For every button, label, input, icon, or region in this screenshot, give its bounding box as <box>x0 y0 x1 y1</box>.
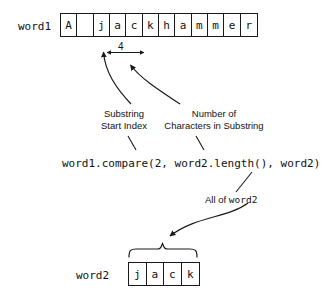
all-of-word2-arrow <box>170 203 248 236</box>
word1-cell-11: r <box>241 14 257 36</box>
substring-start-index-line1: Substring <box>93 108 155 120</box>
number-of-characters-annotation: Number of Characters in Substring <box>160 108 268 131</box>
substring-start-index-line2: Start Index <box>93 120 155 132</box>
word1-cell-1 <box>77 14 93 36</box>
all-of-word2-prefix: All of <box>205 194 229 205</box>
substring-start-index-leader <box>128 136 136 150</box>
diagram-vector-layer <box>0 0 328 297</box>
word1-cell-6: h <box>159 14 175 36</box>
word1-string-box: A j a c k h a m m e r <box>60 13 258 37</box>
number-of-characters-leader <box>196 136 204 150</box>
word2-brace <box>129 244 197 258</box>
word1-cell-5: k <box>143 14 159 36</box>
word2-cell-3: k <box>182 263 200 285</box>
all-of-word2-annotation: All of word2 <box>205 194 257 206</box>
word2-cell-1: a <box>147 263 165 285</box>
substring-start-index-annotation: Substring Start Index <box>93 108 155 131</box>
number-of-characters-arrow <box>131 65 181 104</box>
number-of-characters-line2: Characters in Substring <box>160 120 268 132</box>
word2-string-box: j a c k <box>128 262 200 286</box>
word1-cell-3: a <box>110 14 126 36</box>
substring-length-dimension-label: 4 <box>118 41 124 52</box>
number-of-characters-line1: Number of <box>160 108 268 120</box>
word1-cell-9: m <box>208 14 224 36</box>
all-of-word2-leader <box>236 172 252 192</box>
code-expression: word1.compare(2, word2.length(), word2) <box>62 157 320 170</box>
diagram-canvas: word1 A j a c k h a m m e r 4 Substring … <box>0 0 328 297</box>
word1-cell-2: j <box>94 14 110 36</box>
word1-cell-8: m <box>192 14 208 36</box>
word2-label: word2 <box>76 269 109 282</box>
word1-cell-4: c <box>126 14 142 36</box>
word1-cell-10: e <box>224 14 240 36</box>
word1-cell-7: a <box>175 14 191 36</box>
word1-cell-0: A <box>61 14 77 36</box>
word1-label: word1 <box>18 20 51 33</box>
word2-cell-2: c <box>164 263 182 285</box>
word2-cell-0: j <box>129 263 147 285</box>
all-of-word2-mono: word2 <box>229 194 258 205</box>
substring-start-index-arrow <box>104 52 132 104</box>
